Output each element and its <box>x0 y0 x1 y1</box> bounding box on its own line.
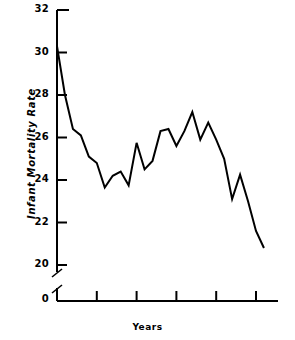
y-tick-label: 20 <box>23 258 49 269</box>
y-axis-zero-label: 0 <box>23 293 49 304</box>
axes <box>52 10 278 301</box>
y-tick-label: 32 <box>23 3 49 14</box>
y-axis-title: Infant Mortality Rate <box>26 79 37 229</box>
y-tick-label: 30 <box>23 46 49 57</box>
tick-marks <box>57 53 256 302</box>
x-axis-title: Years <box>0 322 295 332</box>
infant-mortality-line-chart: 202224262830320 194519501955196019651970… <box>0 0 295 340</box>
data-series-line <box>57 46 264 248</box>
